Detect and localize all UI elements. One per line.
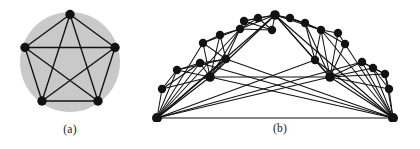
hub-node xyxy=(325,72,335,82)
graph-node xyxy=(385,85,393,93)
edge xyxy=(200,63,393,118)
graph-node xyxy=(216,31,224,39)
caption-panel-a: (a) xyxy=(0,123,140,135)
graph-node xyxy=(311,56,319,64)
graph-node xyxy=(65,10,74,19)
graph-node xyxy=(334,29,342,37)
graph-node xyxy=(196,59,204,67)
graph-node xyxy=(286,14,294,22)
graph-node xyxy=(199,39,207,47)
graph-node xyxy=(93,96,102,105)
graph-node xyxy=(381,70,389,78)
graph-node xyxy=(173,66,181,74)
graph-node xyxy=(158,85,166,93)
edge xyxy=(330,44,345,77)
graph-node xyxy=(110,43,119,52)
edge xyxy=(226,59,393,118)
hub-node xyxy=(205,72,215,82)
graph-node xyxy=(254,14,262,22)
shaded-disk xyxy=(20,12,120,112)
graph-node xyxy=(301,19,309,27)
graph-node xyxy=(341,40,349,48)
graph-node xyxy=(358,58,366,66)
graph-node xyxy=(20,43,29,52)
graph-node xyxy=(222,55,230,63)
graph-node xyxy=(369,64,377,72)
panel-a-graphic xyxy=(0,0,140,122)
graph-node xyxy=(240,17,248,25)
panel-b-graphic xyxy=(140,0,420,122)
graph-node xyxy=(268,26,276,34)
figure-root: (a) (b) xyxy=(0,0,420,149)
graph-node xyxy=(236,25,244,33)
graph-node xyxy=(37,96,46,105)
edge xyxy=(240,29,272,30)
hub-node xyxy=(270,10,280,20)
edge xyxy=(157,29,240,118)
caption-panel-b: (b) xyxy=(140,122,420,134)
graph-node xyxy=(317,26,325,34)
